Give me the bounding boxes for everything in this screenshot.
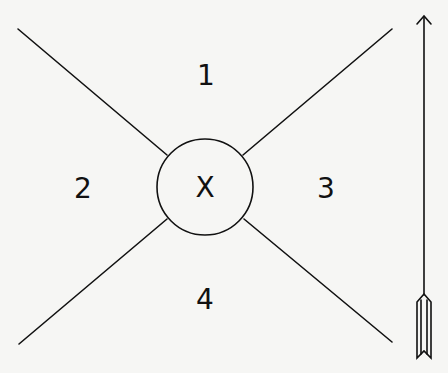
line-bottom-right <box>244 219 392 342</box>
line-bottom-left <box>19 219 167 344</box>
region-1-label: 1 <box>197 62 215 90</box>
region-4-label: 4 <box>196 286 214 314</box>
center-label: X <box>195 174 214 202</box>
line-top-left <box>18 29 167 155</box>
line-top-right <box>243 29 392 155</box>
diagram-canvas: 1 2 3 4 X <box>0 0 448 373</box>
region-3-label: 3 <box>317 175 335 203</box>
diagram-lines <box>0 0 448 373</box>
region-2-label: 2 <box>74 175 92 203</box>
upward-arrow-icon <box>417 294 431 358</box>
